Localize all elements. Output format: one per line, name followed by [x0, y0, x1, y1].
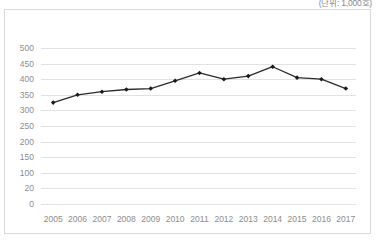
data-point-marker — [295, 75, 300, 80]
data-point-marker — [148, 86, 153, 91]
chart-unit-note: (단위: 1,000호) — [319, 0, 372, 8]
data-point-marker — [270, 64, 275, 69]
data-point-marker — [75, 93, 80, 98]
data-point-marker — [173, 78, 178, 83]
data-point-marker — [124, 87, 129, 92]
plot-area: 500450400350300250200150100200 200520062… — [5, 10, 370, 233]
data-point-marker — [319, 77, 324, 82]
line-series-group — [5, 10, 372, 235]
data-point-marker — [246, 74, 251, 79]
data-point-marker — [197, 71, 202, 76]
data-point-marker — [51, 100, 56, 105]
data-point-marker — [100, 89, 105, 94]
chart-frame: 500450400350300250200150100200 200520062… — [4, 9, 371, 234]
data-point-marker — [222, 77, 227, 82]
data-point-marker — [344, 86, 349, 91]
